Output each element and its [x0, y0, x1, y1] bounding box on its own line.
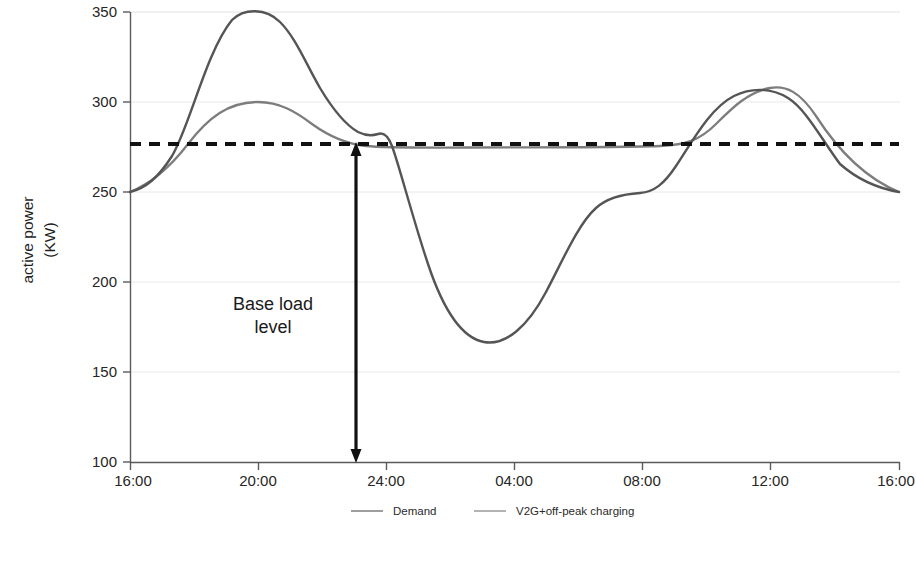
base-load-label-line2: level: [254, 317, 291, 337]
x-tick-label-0: 16:00: [114, 472, 152, 489]
y-tick-label-100: 100: [92, 453, 117, 470]
x-tick-label-1: 20:00: [239, 472, 277, 489]
base-load-annotation: Base load level: [130, 142, 899, 463]
y-tick-label-350: 350: [92, 3, 117, 20]
y-axis: 350 300 250 200 150 100: [92, 3, 131, 470]
x-tick-label-4: 08:00: [623, 472, 661, 489]
gridlines: [130, 12, 900, 372]
x-tick-label-5: 12:00: [751, 472, 789, 489]
series-line-demand: [130, 11, 899, 342]
y-axis-title-line2: (KW): [41, 222, 58, 257]
y-axis-title-line1: active power: [19, 196, 36, 283]
chart-canvas: 350 300 250 200 150 100 16:00 20:00 24:0…: [0, 0, 916, 562]
legend-label-demand: Demand: [393, 505, 436, 517]
y-tick-label-300: 300: [92, 93, 117, 110]
y-axis-title: active power (KW): [19, 196, 58, 283]
series-line-v2g: [130, 87, 899, 192]
x-tick-label-3: 04:00: [495, 472, 533, 489]
x-axis: 16:00 20:00 24:00 04:00 08:00 12:00 16:0…: [114, 462, 915, 489]
legend-label-v2g: V2G+off-peak charging: [516, 505, 634, 517]
chart-figure: 350 300 250 200 150 100 16:00 20:00 24:0…: [0, 0, 916, 562]
legend: Demand V2G+off-peak charging: [351, 505, 634, 517]
y-tick-label-250: 250: [92, 183, 117, 200]
y-tick-label-200: 200: [92, 273, 117, 290]
base-load-arrow-head-down: [351, 449, 362, 463]
y-tick-label-150: 150: [92, 363, 117, 380]
x-tick-label-6: 16:00: [877, 472, 915, 489]
base-load-label-line1: Base load: [233, 294, 313, 314]
x-tick-label-2: 24:00: [367, 472, 405, 489]
